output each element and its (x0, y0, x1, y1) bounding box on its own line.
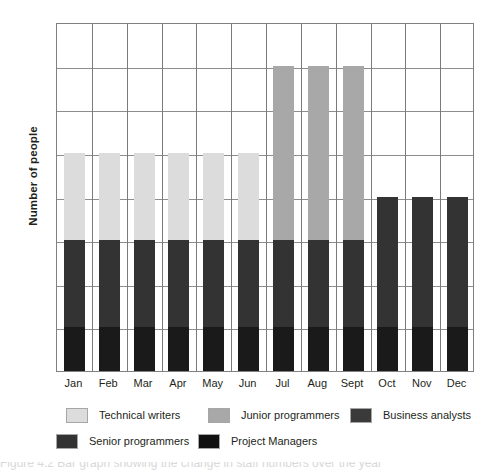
bar-segment (273, 66, 294, 241)
bar-segment (308, 327, 329, 371)
legend-item[interactable]: Junior programmers (208, 404, 339, 426)
stacked-bar[interactable] (447, 197, 468, 372)
bar-segment (99, 153, 120, 240)
bar-segment (203, 153, 224, 240)
bar-segment (203, 240, 224, 327)
bar-slot (127, 24, 162, 371)
legend-item[interactable]: Technical writers (66, 404, 180, 426)
bar-segment (238, 327, 259, 371)
x-axis-tick-labels: JanFebMarAprMayJunJulAugSeptOctNovDec (56, 376, 474, 394)
legend-swatch (350, 408, 372, 423)
stacked-bar-chart-figure: Number of people 012345678 JanFebMarAprM… (0, 0, 487, 474)
stacked-bar[interactable] (238, 153, 259, 371)
x-axis-tick-label: Dec (439, 376, 474, 390)
x-axis-tick-label: Jul (265, 376, 300, 390)
bar-segment (134, 240, 155, 327)
bar-slot (196, 24, 231, 371)
stacked-bar[interactable] (134, 153, 155, 371)
bar-segment (134, 327, 155, 371)
bar-segment (447, 197, 468, 328)
figure-caption-text: Figure 4.2 Bar graph showing the change … (0, 462, 487, 469)
bar-slot (336, 24, 371, 371)
bar-segment (168, 153, 189, 240)
legend-swatch (208, 408, 230, 423)
bar-segment (343, 240, 364, 327)
stacked-bar[interactable] (203, 153, 224, 371)
bar-segment (412, 197, 433, 328)
x-axis-tick-label: Mar (126, 376, 161, 390)
bar-slot (92, 24, 127, 371)
x-axis-tick-label: May (195, 376, 230, 390)
bar-segment (64, 153, 85, 240)
bar-slot (405, 24, 440, 371)
legend-item[interactable]: Business analysts (350, 404, 471, 426)
stacked-bar[interactable] (99, 153, 120, 371)
stacked-bar[interactable] (273, 66, 294, 371)
bar-slot (162, 24, 197, 371)
bar-slot (57, 24, 92, 371)
legend-label: Senior programmers (89, 435, 189, 447)
plot-area (56, 23, 474, 372)
bar-segment (64, 327, 85, 371)
bar-segment (343, 327, 364, 371)
stacked-bar[interactable] (64, 153, 85, 371)
bar-segment (203, 327, 224, 371)
bar-segment (412, 327, 433, 371)
bar-segment (134, 153, 155, 240)
x-axis-tick-label: Jan (56, 376, 91, 390)
stacked-bar[interactable] (168, 153, 189, 371)
bar-segment (168, 240, 189, 327)
bar-segment (308, 240, 329, 327)
legend-item[interactable]: Senior programmers (56, 430, 189, 452)
bar-segment (273, 240, 294, 327)
bar-segment (377, 327, 398, 371)
legend-label: Junior programmers (241, 409, 339, 421)
x-axis-tick-label: Aug (300, 376, 335, 390)
legend-row-1: Technical writersJunior programmersBusin… (56, 404, 476, 426)
figure-caption: Figure 4.2 Bar graph showing the change … (0, 462, 487, 474)
legend-swatch (56, 434, 78, 449)
bar-slot (440, 24, 475, 371)
stacked-bar[interactable] (343, 66, 364, 371)
x-axis-tick-label: Sept (335, 376, 370, 390)
legend-label: Business analysts (383, 409, 471, 421)
bar-slot (301, 24, 336, 371)
legend-item[interactable]: Project Managers (198, 430, 317, 452)
bar-segment (308, 66, 329, 241)
bar-segment (99, 327, 120, 371)
x-axis-tick-label: Feb (91, 376, 126, 390)
stacked-bar[interactable] (308, 66, 329, 371)
x-axis-tick-label: Nov (404, 376, 439, 390)
bar-segment (99, 240, 120, 327)
bar-segment (238, 153, 259, 240)
bar-segment (377, 197, 398, 328)
bar-segment (64, 240, 85, 327)
legend-row-2: Senior programmersProject Managers (56, 430, 476, 452)
stacked-bar[interactable] (377, 197, 398, 372)
x-axis-tick-label: Oct (370, 376, 405, 390)
x-axis-tick-label: Jun (230, 376, 265, 390)
legend-swatch (66, 408, 88, 423)
legend-label: Project Managers (231, 435, 317, 447)
x-axis-tick-label: Apr (161, 376, 196, 390)
stacked-bar[interactable] (412, 197, 433, 372)
bar-slot (231, 24, 266, 371)
bar-segment (343, 66, 364, 241)
bar-segment (447, 327, 468, 371)
legend-swatch (198, 434, 220, 449)
chart-legend: Technical writersJunior programmersBusin… (56, 404, 476, 454)
bar-segment (273, 327, 294, 371)
legend-label: Technical writers (99, 409, 180, 421)
bar-slot (371, 24, 406, 371)
y-axis-title: Number of people (27, 96, 39, 256)
bar-segment (238, 240, 259, 327)
bar-segment (168, 327, 189, 371)
bar-slot (266, 24, 301, 371)
